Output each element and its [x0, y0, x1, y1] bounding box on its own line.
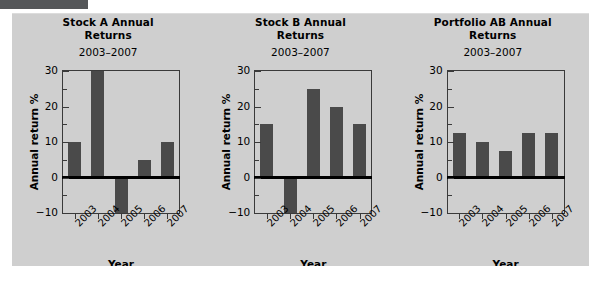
y-tick-major [63, 142, 69, 143]
chart-title-portfolio-ab: Portfolio AB Annual Returns [397, 16, 589, 42]
plot-area-stock-a: Annual return % Year 3020100−10200320042… [62, 70, 180, 214]
y-tick-label: 30 [220, 65, 250, 76]
chart-title-line2: Returns [12, 29, 204, 42]
bar [545, 133, 558, 177]
x-axis-label-stock-a: Year [62, 258, 180, 266]
zero-line [447, 176, 565, 179]
y-tick-major [255, 107, 261, 108]
y-tick-minor [63, 160, 67, 161]
y-tick-minor [255, 160, 259, 161]
y-tick-label: 10 [28, 136, 58, 147]
bar [260, 124, 273, 177]
bar-series-stock-b [255, 71, 371, 213]
y-tick-major [63, 213, 69, 214]
y-tick-major [63, 107, 69, 108]
x-axis-label-portfolio-ab: Year [447, 258, 565, 266]
y-tick-label: −10 [413, 207, 443, 218]
bar [353, 124, 366, 177]
chart-title-line2: Returns [397, 29, 589, 42]
bar [138, 160, 151, 178]
bar [330, 107, 343, 178]
bar [522, 133, 535, 177]
bar-series-portfolio-ab [448, 71, 564, 213]
y-tick-label: 0 [28, 172, 58, 183]
bar [161, 142, 174, 178]
chart-panels: Stock A Annual Returns 2003–2007 Annual … [12, 13, 589, 266]
y-tick-major [255, 142, 261, 143]
bar [91, 71, 104, 178]
plot-area-stock-b: Annual return % Year 3020100−10200320042… [254, 70, 372, 214]
y-tick-minor [255, 89, 259, 90]
y-tick-major [63, 71, 69, 72]
figure-root: Stock A Annual Returns 2003–2007 Annual … [0, 0, 589, 281]
y-tick-minor [448, 195, 452, 196]
y-tick-minor [448, 160, 452, 161]
y-tick-minor [63, 124, 67, 125]
chart-panel-stock-a: Stock A Annual Returns 2003–2007 Annual … [12, 13, 204, 266]
y-tick-label: 20 [220, 101, 250, 112]
x-axis-label-stock-b: Year [254, 258, 372, 266]
y-tick-label: 0 [220, 172, 250, 183]
chart-title-line2: Returns [204, 29, 396, 42]
chart-subtitle-stock-a: 2003–2007 [12, 46, 204, 58]
y-tick-minor [448, 89, 452, 90]
chart-title-line1: Stock B Annual [204, 16, 396, 29]
bar [476, 142, 489, 178]
chart-panel-portfolio-ab: Portfolio AB Annual Returns 2003–2007 An… [397, 13, 589, 266]
zero-line [254, 176, 372, 179]
y-tick-label: 30 [28, 65, 58, 76]
y-tick-major [448, 107, 454, 108]
chart-subtitle-stock-b: 2003–2007 [204, 46, 396, 58]
y-tick-major [255, 213, 261, 214]
y-tick-label: −10 [28, 207, 58, 218]
y-tick-label: 20 [28, 101, 58, 112]
chart-panel-stock-b: Stock B Annual Returns 2003–2007 Annual … [204, 13, 396, 266]
chart-title-stock-b: Stock B Annual Returns [204, 16, 396, 42]
bar [68, 142, 81, 178]
chart-title-line1: Stock A Annual [12, 16, 204, 29]
y-tick-major [255, 71, 261, 72]
y-tick-minor [255, 124, 259, 125]
y-tick-major [63, 178, 69, 179]
bar-series-stock-a [63, 71, 179, 213]
y-tick-label: 20 [413, 101, 443, 112]
y-tick-major [255, 178, 261, 179]
bar [307, 89, 320, 178]
corner-marker-bar [0, 0, 88, 9]
y-tick-minor [255, 195, 259, 196]
y-tick-major [448, 178, 454, 179]
y-tick-major [448, 71, 454, 72]
y-tick-label: −10 [220, 207, 250, 218]
y-tick-label: 10 [413, 136, 443, 147]
figure-panel: Stock A Annual Returns 2003–2007 Annual … [12, 13, 589, 266]
y-tick-major [448, 213, 454, 214]
chart-title-line1: Portfolio AB Annual [397, 16, 589, 29]
zero-line [62, 176, 180, 179]
y-tick-label: 0 [413, 172, 443, 183]
y-tick-minor [63, 89, 67, 90]
chart-subtitle-portfolio-ab: 2003–2007 [397, 46, 589, 58]
y-tick-label: 10 [220, 136, 250, 147]
y-tick-label: 30 [413, 65, 443, 76]
plot-area-portfolio-ab: Annual return % Year 3020100−10200320042… [447, 70, 565, 214]
chart-title-stock-a: Stock A Annual Returns [12, 16, 204, 42]
bar [499, 151, 512, 178]
y-tick-major [448, 142, 454, 143]
bar [453, 133, 466, 177]
y-tick-minor [63, 195, 67, 196]
y-tick-minor [448, 124, 452, 125]
